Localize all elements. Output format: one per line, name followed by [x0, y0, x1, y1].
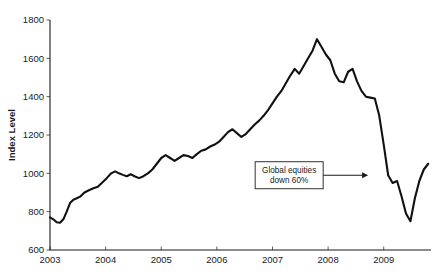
y-axis-title: Index Level — [6, 109, 17, 161]
x-tick-label: 2006 — [206, 254, 227, 265]
y-tick-label: 800 — [28, 206, 44, 217]
annotation-text-line-1: Global equities — [262, 166, 316, 175]
x-axis-ticks: 2003200420052006200720082009 — [39, 247, 394, 266]
annotation-global-equities: Global equities down 60% — [255, 162, 368, 189]
annotation-arrow-head — [362, 172, 368, 178]
chart-container: Index Level 60080010001200140016001800 2… — [0, 0, 433, 276]
y-axis-ticks: 60080010001200140016001800 — [23, 14, 50, 255]
y-tick-label: 1200 — [23, 129, 44, 140]
x-tick-label: 2009 — [373, 254, 394, 265]
x-tick-label: 2005 — [151, 254, 172, 265]
x-tick-label: 2004 — [95, 254, 116, 265]
y-tick-label: 1800 — [23, 14, 44, 25]
x-tick-label: 2007 — [262, 254, 283, 265]
annotation-text-line-2: down 60% — [270, 176, 308, 185]
y-tick-label: 1400 — [23, 91, 44, 102]
x-tick-label: 2003 — [39, 254, 60, 265]
y-tick-label: 1000 — [23, 168, 44, 179]
x-tick-label: 2008 — [318, 254, 339, 265]
line-chart: Index Level 60080010001200140016001800 2… — [0, 0, 433, 276]
y-tick-label: 1600 — [23, 53, 44, 64]
series-line-global-equities — [50, 39, 428, 223]
